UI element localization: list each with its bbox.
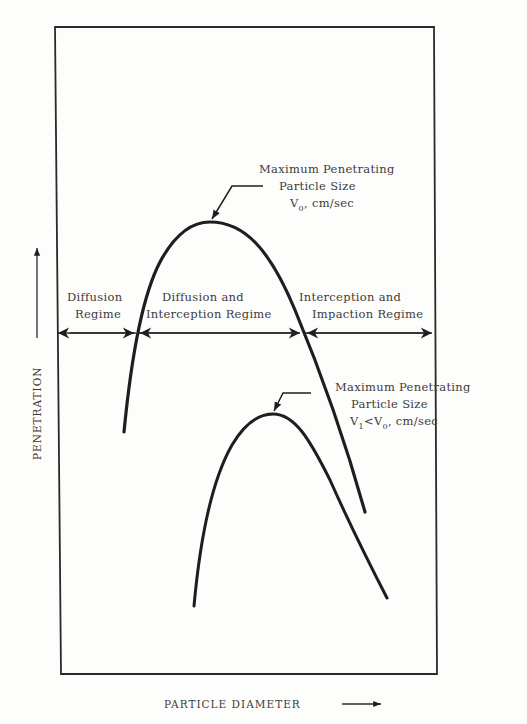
regime-1-line2: Regime	[75, 307, 121, 321]
regime-3-line1: Interception and	[299, 290, 402, 304]
regime-3-line2: Impaction Regime	[312, 307, 423, 321]
annotation-v0-line3: V0, cm/sec	[289, 196, 354, 213]
annotation-v0-line1: Maximum Penetrating	[259, 162, 395, 176]
regime-2-line1: Diffusion and	[162, 290, 244, 304]
annotation-v1-line1: Maximum Penetrating	[335, 380, 471, 394]
y-axis-label: PENETRATION	[31, 367, 43, 460]
leader-arrow-v0	[212, 186, 263, 219]
annotation-v1-line2: Particle Size	[351, 397, 428, 411]
regime-1-line1: Diffusion	[67, 290, 123, 304]
leader-arrow-v1	[274, 393, 311, 411]
plot-frame	[55, 27, 437, 674]
annotation-v0-line2: Particle Size	[279, 179, 356, 193]
curve-v1	[194, 414, 387, 606]
annotation-v1-line3: V1<V0, cm/sec	[349, 414, 438, 431]
x-axis-label: PARTICLE DIAMETER	[164, 698, 301, 710]
penetration-diagram: Maximum Penetrating Particle Size V0, cm…	[0, 0, 527, 724]
curve-v0	[124, 222, 365, 512]
y-axis-label-group: PENETRATION	[31, 367, 43, 460]
regime-2-line2: Interception Regime	[146, 307, 272, 321]
